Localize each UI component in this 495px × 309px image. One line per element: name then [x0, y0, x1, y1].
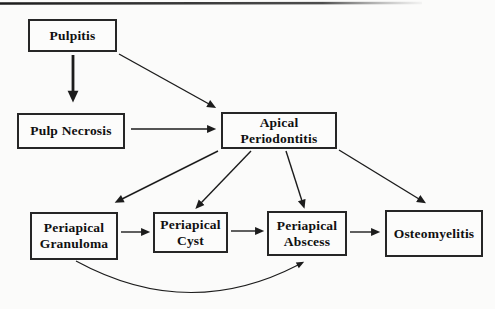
node-apical-periodontitis: Apical Periodontitis — [221, 112, 337, 149]
node-apical-periodontitis-label-line1: Apical — [260, 115, 299, 131]
node-osteomyelitis-label: Osteomyelitis — [394, 226, 475, 242]
arrow-periapical-granuloma-to-periapical-abscess — [76, 261, 298, 293]
node-periapical-cyst-label-line1: Periapical — [160, 217, 220, 233]
arrow-pulpitis-to-apical-periodontitis — [119, 54, 209, 104]
node-periapical-granuloma: Periapical Granuloma — [30, 212, 118, 260]
node-pulp-necrosis-label: Pulp Necrosis — [30, 123, 111, 139]
arrow-apical-periodontitis-to-periapical-abscess — [286, 151, 302, 201]
node-periapical-abscess-label-line2: Abscess — [284, 234, 330, 250]
node-periapical-cyst: Periapical Cyst — [153, 212, 228, 253]
node-periapical-abscess-label-line1: Periapical — [277, 218, 337, 234]
node-pulpitis: Pulpitis — [28, 19, 117, 52]
node-periapical-abscess: Periapical Abscess — [267, 211, 347, 256]
node-periapical-cyst-label-line2: Cyst — [177, 233, 204, 249]
arrow-apical-periodontitis-to-periapical-cyst — [201, 151, 251, 203]
arrow-apical-periodontitis-to-periapical-granuloma — [122, 151, 218, 199]
top-rule-line — [0, 3, 422, 4]
arrow-apical-periodontitis-to-osteomyelitis — [339, 150, 419, 199]
node-periapical-granuloma-label-line2: Granuloma — [40, 236, 109, 252]
flowchart-diagram: Pulpitis Pulp Necrosis Apical Periodonti… — [0, 0, 495, 309]
node-osteomyelitis: Osteomyelitis — [385, 210, 483, 257]
node-apical-periodontitis-label-line2: Periodontitis — [241, 131, 318, 147]
node-pulp-necrosis: Pulp Necrosis — [17, 113, 125, 149]
node-periapical-granuloma-label-line1: Periapical — [44, 220, 104, 236]
node-pulpitis-label: Pulpitis — [50, 28, 96, 44]
